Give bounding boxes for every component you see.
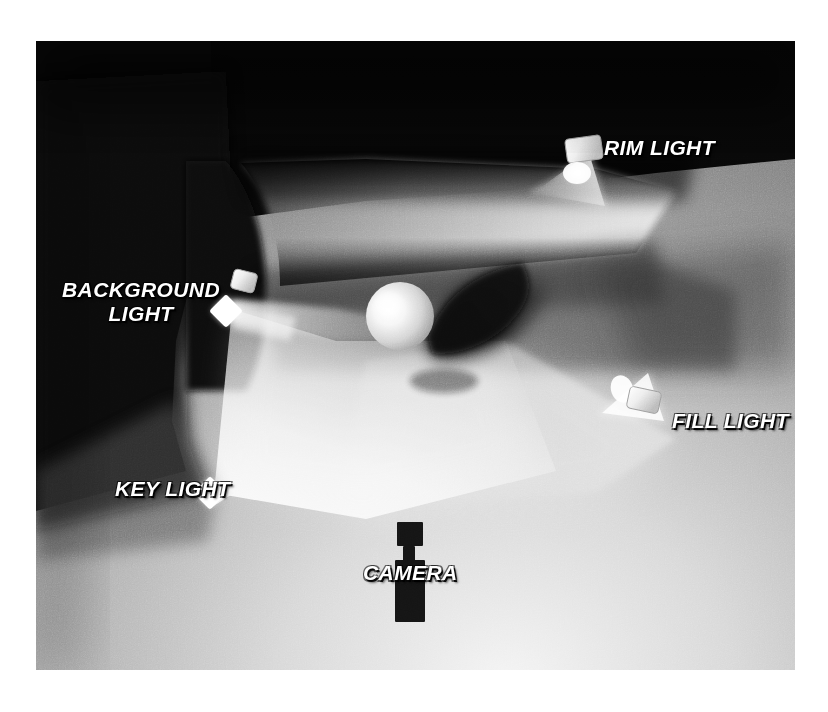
camera-silhouette: [395, 522, 425, 622]
band-top-falloff: [236, 151, 696, 201]
scene-render: [36, 41, 795, 670]
page-root: RIM LIGHT BACKGROUNDLIGHT KEY LIGHT FILL…: [0, 0, 828, 712]
sphere-contact-shadow: [410, 369, 478, 393]
sphere-specular-highlight: [375, 294, 401, 316]
camera-body: [395, 560, 425, 622]
camera-neck: [403, 546, 415, 562]
rim-light-can: [565, 135, 604, 164]
lighting-setup-figure: [36, 41, 795, 670]
vignette-top: [36, 41, 795, 111]
rim-light-lens-core: [568, 166, 586, 180]
vignette-left: [36, 41, 82, 670]
camera-lens-hood: [397, 522, 423, 546]
subject-sphere: [366, 282, 434, 350]
